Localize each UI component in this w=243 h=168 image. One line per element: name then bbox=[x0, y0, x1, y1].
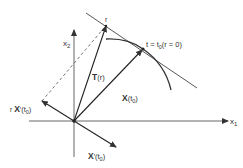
point-t0 bbox=[142, 48, 145, 51]
dashed-parallelogram-line bbox=[42, 28, 104, 101]
vector-r-Xprime-t0 bbox=[42, 101, 74, 121]
X-t0-label: X(t0) bbox=[122, 93, 138, 104]
point-r bbox=[105, 25, 107, 27]
r-Xprime-t0-label: rX′(t0) bbox=[10, 104, 32, 115]
origin-point bbox=[72, 119, 76, 123]
x2-axis-label: x2 bbox=[63, 39, 71, 49]
tangent-vector-diagram: x2 x1 r t = t0(r = 0) T(r) X(t0) rX′(t0)… bbox=[0, 0, 243, 168]
point-t0-label: t = t0(r = 0) bbox=[146, 40, 182, 50]
vector-X-t0 bbox=[74, 50, 142, 121]
vector-Xprime-t0 bbox=[74, 121, 116, 147]
point-r-label: r bbox=[105, 16, 108, 23]
Xprime-t0-label: X′(t0) bbox=[88, 151, 106, 162]
T-r-label: T(r) bbox=[92, 72, 105, 82]
x1-axis-label: x1 bbox=[230, 117, 238, 127]
